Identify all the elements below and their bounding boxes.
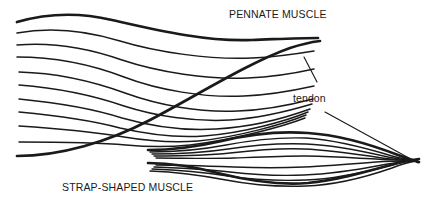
muscle-architecture-diagram: PENNATE MUSCLE STRAP-SHAPED MUSCLE tendo… xyxy=(0,0,424,212)
pennate-muscle-label: PENNATE MUSCLE xyxy=(229,8,327,20)
strap-shaped-muscle-label: STRAP-SHAPED MUSCLE xyxy=(62,181,193,193)
tendon-annotation-label: tendon xyxy=(293,92,326,104)
